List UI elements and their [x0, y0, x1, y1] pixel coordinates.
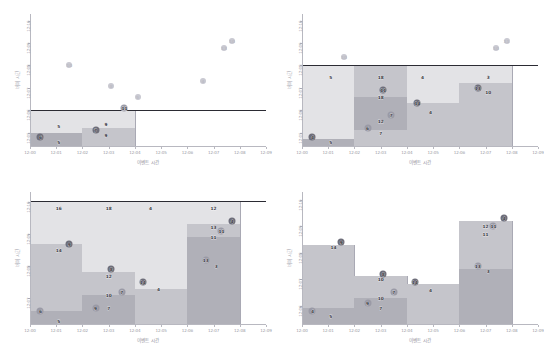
x-axis-spine — [302, 324, 538, 325]
y-tick-label: 12:10 — [298, 199, 303, 213]
window-separator — [512, 221, 513, 324]
window-band — [407, 284, 459, 324]
x-axis-title: 이벤트 시간 — [409, 337, 430, 343]
y-tick-label: 12:08 — [298, 252, 303, 266]
data-point-label: 7 — [392, 290, 395, 295]
data-point-label: 10 — [378, 277, 384, 282]
x-tick-label: 12:08 — [506, 328, 517, 333]
x-tick-label: 12:03 — [375, 328, 386, 333]
y-tick-label: 12:07 — [298, 279, 303, 293]
data-point-label: 11 — [483, 232, 489, 237]
data-point-label: 9 — [366, 300, 369, 305]
x-tick-label: 12:02 — [349, 328, 360, 333]
window-band — [459, 269, 511, 324]
x-tick — [381, 325, 382, 327]
x-tick — [328, 325, 329, 327]
window-band — [354, 298, 406, 324]
y-axis-title: 버퍼 시간 — [286, 245, 292, 271]
x-tick — [302, 325, 303, 327]
y-tick-label: 12:06 — [298, 305, 303, 319]
data-point-label: 7 — [379, 306, 382, 311]
x-tick-label: 12:01 — [323, 328, 334, 333]
data-point-label: 4 — [429, 287, 432, 292]
x-tick-label: 12:09 — [532, 328, 543, 333]
x-tick-label: 12:00 — [296, 328, 307, 333]
chart-panel-bottom-right: 12:0012:0112:0212:0312:0412:0512:0612:07… — [0, 0, 544, 358]
data-point-label: 3 — [487, 269, 490, 274]
x-tick — [512, 325, 513, 327]
x-tick-label: 12:07 — [480, 328, 491, 333]
data-point-label: 5 — [329, 314, 332, 319]
data-point-label: 9 — [340, 240, 343, 245]
data-point-label: 4 — [502, 216, 505, 221]
x-tick — [407, 325, 408, 327]
x-tick — [486, 325, 487, 327]
x-tick — [433, 325, 434, 327]
data-point-label: 10 — [378, 295, 384, 300]
data-point-label: 12 — [483, 224, 489, 229]
x-tick-label: 12:06 — [454, 328, 465, 333]
data-point-label: 14 — [412, 279, 418, 284]
x-tick — [354, 325, 355, 327]
data-point-label: 4 — [311, 308, 314, 313]
x-tick — [459, 325, 460, 327]
y-tick-label: 12:09 — [298, 226, 303, 240]
data-point-label: 11 — [490, 224, 496, 229]
data-point-label: 14 — [330, 245, 336, 250]
data-point-label: 8 — [382, 271, 385, 276]
x-tick — [538, 325, 539, 327]
window-band — [302, 245, 354, 308]
x-tick-label: 12:05 — [427, 328, 438, 333]
data-point-label: 13 — [475, 263, 481, 268]
x-tick-label: 12:04 — [401, 328, 412, 333]
figure-canvas: 12:0012:0112:0212:0312:0412:0512:0612:07… — [0, 0, 544, 358]
